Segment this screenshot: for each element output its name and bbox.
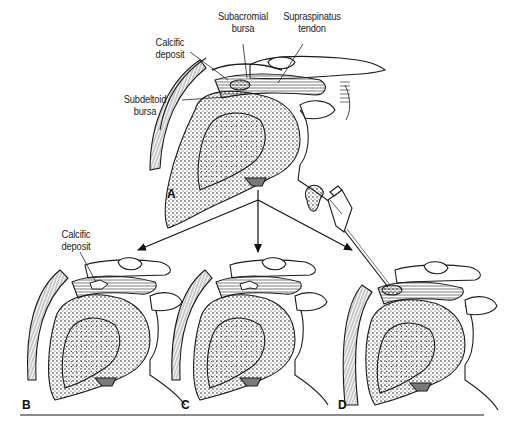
shoulder-figure: Subacromial bursa Supraspinatus tendon C… [0, 0, 508, 435]
bottom-rule-divider [20, 414, 484, 416]
panel-letter-a: A [167, 187, 176, 201]
label-line: Calcific [145, 36, 196, 48]
panel-d-drawing [343, 262, 498, 410]
label-subdeltoid-bursa: Subdeltoid bursa [115, 93, 175, 117]
label-line: tendon [270, 22, 355, 34]
panel-c-drawing [172, 258, 328, 405]
panel-letter-d: D [338, 398, 347, 412]
label-line: deposit [145, 48, 196, 60]
syringe-icon [305, 185, 390, 287]
label-line: bursa [115, 105, 175, 117]
label-calcific-deposit-a: Calcific deposit [145, 36, 196, 60]
label-line: deposit [51, 240, 102, 252]
label-line: Calcific [51, 228, 102, 240]
panel-b-drawing [27, 258, 185, 405]
panel-a-drawing [150, 56, 385, 228]
label-line: Supraspinatus [270, 10, 355, 22]
panel-letter-c: C [181, 398, 190, 412]
label-calcific-deposit-b: Calcific deposit [51, 228, 102, 252]
panel-letter-b: B [22, 398, 31, 412]
label-supraspinatus-tendon: Supraspinatus tendon [270, 10, 355, 34]
label-line: Subdeltoid [115, 93, 175, 105]
illustration [0, 0, 508, 435]
